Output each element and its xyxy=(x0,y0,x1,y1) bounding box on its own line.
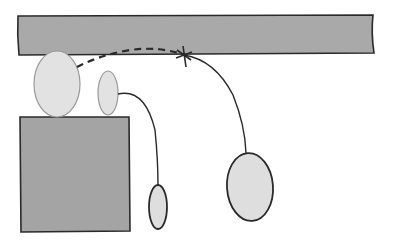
large-left-ellipse xyxy=(34,51,80,117)
diagram-canvas xyxy=(0,0,396,245)
small-left-ellipse xyxy=(98,71,118,115)
top-bar xyxy=(18,15,374,55)
square-block xyxy=(20,117,130,232)
hanging-small-ellipse xyxy=(149,185,167,229)
string-large xyxy=(184,55,246,153)
hanging-large-ellipse xyxy=(225,151,276,222)
diagram-svg xyxy=(0,0,396,245)
